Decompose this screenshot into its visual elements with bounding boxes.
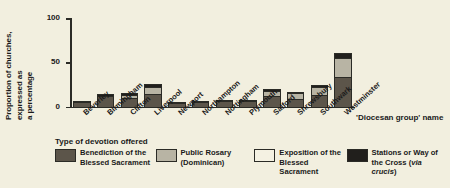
legend-label: Exposition of the Blessed Sacrament [279, 148, 346, 177]
bar-segment [145, 88, 161, 95]
y-tick-0: 0 [66, 107, 71, 109]
legend-label: Benediction of the Blessed Sacrament [80, 148, 150, 167]
legend-item: Public Rosary (Dominican) [156, 148, 255, 167]
bar-cell [141, 18, 165, 107]
legend-swatch [254, 149, 275, 162]
bar-cell [70, 18, 94, 107]
chart-figure: Proportion of churches, expressed as a p… [0, 0, 450, 188]
legend-item: Stations or Way of the Cross (via crucis… [347, 148, 448, 177]
bar-segment [335, 59, 351, 78]
y-tick-label-0: 0 [56, 103, 60, 111]
y-tick-label-100: 100 [47, 14, 60, 22]
legend-swatch [347, 149, 368, 162]
legend-items: Benediction of the Blessed SacramentPubl… [55, 148, 447, 177]
y-tick-label-50: 50 [51, 58, 60, 66]
legend-item: Benediction of the Blessed Sacrament [55, 148, 156, 167]
legend-swatch [156, 149, 177, 162]
legend-item: Exposition of the Blessed Sacrament [254, 148, 346, 177]
x-axis-title: 'Diocesan group' name [356, 113, 443, 122]
legend-title: Type of devotion offered [55, 137, 447, 146]
bar-cell [284, 18, 308, 107]
legend: Type of devotion offered Benediction of … [55, 137, 447, 177]
legend-swatch [55, 149, 76, 162]
legend-label: Stations or Way of the Cross (via crucis… [372, 148, 448, 177]
legend-label: Public Rosary (Dominican) [181, 148, 232, 167]
y-axis-title-container: Proportion of churches, expressed as a p… [4, 2, 46, 120]
y-axis-title: Proportion of churches, expressed as a p… [4, 2, 36, 120]
